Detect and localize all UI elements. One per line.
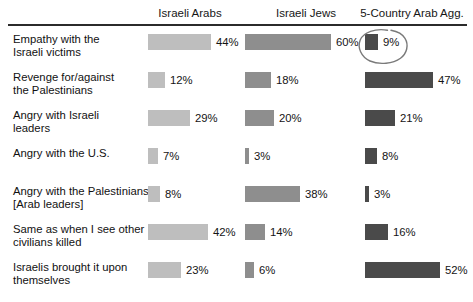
chart-bar-value: 20% — [279, 111, 302, 125]
row-label-line1: Angry with the U.S. — [13, 147, 110, 159]
row-label-line1: Empathy with the — [13, 33, 100, 45]
chart-cell: 23% — [148, 261, 221, 281]
row-label: Same as when I see othercivilians killed — [13, 223, 151, 249]
row-label-line2: civilians killed — [13, 236, 151, 249]
column-header-5-country-arab-agg: 5-Country Arab Agg. — [360, 6, 464, 20]
chart-bar — [365, 72, 433, 88]
chart-cell: 3% — [365, 185, 409, 205]
row-label-line1: Angry with the Palestinians — [13, 185, 149, 197]
row-label-line1: Revenge for/against — [13, 71, 114, 83]
chart-cell: 47% — [365, 71, 473, 91]
row-label: Angry with the Palestinians[Arab leaders… — [13, 185, 151, 211]
row-label: Angry with Israelileaders — [13, 109, 151, 135]
chart-bar-value: 29% — [195, 111, 218, 125]
chart-cell: 42% — [148, 223, 248, 243]
chart-cell: 12% — [148, 71, 205, 91]
row-label: Israelis brought it uponthemselves — [13, 261, 151, 287]
chart-cell: 3% — [245, 147, 289, 167]
row-label: Empathy with theIsraeli victims — [13, 33, 151, 59]
chart-row: Empathy with theIsraeli victims44%60%9% — [0, 33, 473, 71]
chart-cell: 21% — [365, 109, 435, 129]
row-label-line1: Angry with Israeli — [13, 109, 99, 121]
chart-bar-value: 14% — [270, 225, 293, 239]
row-label-line2: [Arab leaders] — [13, 198, 151, 211]
row-label-line2: leaders — [13, 122, 151, 135]
chart-bar — [245, 262, 254, 278]
chart-bar-value: 8% — [165, 187, 181, 201]
chart-bar — [148, 262, 181, 278]
chart-row: Israelis brought it uponthemselves23%6%5… — [0, 261, 473, 299]
row-label-line2: the Palestinians — [13, 84, 151, 97]
chart-bar-value: 60% — [336, 35, 359, 49]
chart-cell: 8% — [148, 185, 200, 205]
chart-row: Same as when I see othercivilians killed… — [0, 223, 473, 261]
chart-bar — [365, 224, 388, 240]
chart-bar — [148, 224, 208, 240]
chart-bar — [245, 148, 249, 164]
chart-bar-value: 42% — [213, 225, 236, 239]
chart-bar-value: 47% — [438, 73, 461, 87]
chart-bar-value: 18% — [276, 73, 299, 87]
chart-bar-value: 6% — [259, 263, 275, 277]
column-header-israeli-jews: Israeli Jews — [276, 6, 336, 20]
row-label: Revenge for/againstthe Palestinians — [13, 71, 151, 97]
chart-bar — [245, 186, 300, 202]
chart-cell: 8% — [365, 147, 417, 167]
chart-bar-value: 23% — [186, 263, 209, 277]
chart-bar-value: 12% — [170, 73, 193, 87]
row-label-line1: Same as when I see other — [13, 223, 144, 235]
row-label-line2: Israeli victims — [13, 46, 151, 59]
chart-bar-value: 44% — [216, 35, 239, 49]
row-label-line1: Israelis brought it upon — [13, 261, 127, 273]
survey-bar-chart: Israeli Arabs Israeli Jews 5-Country Ara… — [0, 0, 473, 302]
chart-bar — [245, 224, 265, 240]
chart-bar — [365, 262, 440, 278]
chart-cell: 20% — [245, 109, 314, 129]
chart-bar-value: 3% — [374, 187, 390, 201]
chart-cell: 44% — [148, 33, 251, 53]
chart-cell: 29% — [148, 109, 230, 129]
chart-bar — [148, 34, 211, 50]
chart-cell: 9% — [365, 33, 418, 53]
chart-cell: 6% — [245, 261, 294, 281]
chart-bar-value: 3% — [254, 149, 270, 163]
column-header-israeli-arabs: Israeli Arabs — [158, 6, 221, 20]
chart-cell: 52% — [365, 261, 473, 281]
chart-row: Revenge for/againstthe Palestinians12%18… — [0, 71, 473, 109]
header-divider — [8, 24, 467, 26]
chart-bar-value: 8% — [382, 149, 398, 163]
chart-cell: 60% — [245, 33, 371, 53]
chart-bar — [365, 148, 377, 164]
chart-bar — [365, 34, 378, 50]
chart-bar-value: 38% — [305, 187, 328, 201]
chart-bar-value: 9% — [383, 35, 399, 49]
chart-cell: 14% — [245, 223, 305, 243]
chart-bar — [148, 148, 158, 164]
chart-bar-value: 21% — [400, 111, 423, 125]
chart-bar — [148, 186, 160, 202]
chart-bar-value: 52% — [445, 263, 468, 277]
chart-bar — [148, 72, 165, 88]
row-label-line2: themselves — [13, 274, 151, 287]
chart-cell: 38% — [245, 185, 340, 205]
chart-bar — [245, 34, 331, 50]
chart-bar — [245, 72, 271, 88]
chart-bar-value: 16% — [393, 225, 416, 239]
chart-row: Angry with Israelileaders29%20%21% — [0, 109, 473, 147]
chart-cell: 16% — [365, 223, 428, 243]
chart-bar — [365, 186, 369, 202]
chart-row: Angry with the Palestinians[Arab leaders… — [0, 185, 473, 223]
chart-cell: 7% — [148, 147, 198, 167]
column-header-row: Israeli Arabs Israeli Jews 5-Country Ara… — [0, 6, 473, 22]
chart-bar — [148, 110, 190, 126]
chart-row: Angry with the U.S.7%3%8% — [0, 147, 473, 185]
chart-bar — [245, 110, 274, 126]
chart-cell: 18% — [245, 71, 311, 91]
chart-bar — [365, 110, 395, 126]
row-label: Angry with the U.S. — [13, 147, 151, 160]
chart-bar-value: 7% — [163, 149, 179, 163]
